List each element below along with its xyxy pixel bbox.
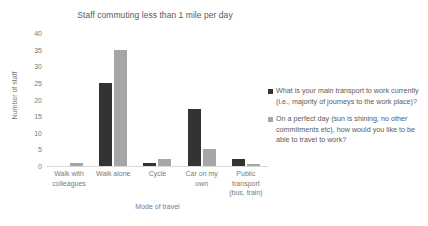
- bar-group: [135, 33, 179, 166]
- x-axis-title: Mode of travel: [47, 203, 268, 210]
- bar: [232, 159, 245, 166]
- y-axis-title: Number of staff: [11, 61, 18, 131]
- legend-swatch-icon: [268, 117, 273, 122]
- x-axis-label-line: (bus, train): [224, 188, 268, 198]
- x-axis-label: Cycle: [135, 169, 179, 179]
- x-axis-label-line: Public: [224, 169, 268, 179]
- x-axis-label-line: Car on my: [180, 169, 224, 179]
- legend-item[interactable]: On a perfect day (sun is shining, no oth…: [268, 114, 426, 146]
- bar-pair: [135, 33, 179, 166]
- y-tick-label: 35: [20, 46, 42, 53]
- x-axis-label-line: own: [180, 179, 224, 189]
- bar: [188, 109, 201, 166]
- y-tick-label: 5: [20, 146, 42, 153]
- y-tick-label: 40: [20, 30, 42, 37]
- bar-pair: [47, 33, 91, 166]
- bar: [158, 159, 171, 166]
- x-axis-label: Walk alone: [91, 169, 135, 179]
- x-axis-label-line: colleagues: [47, 179, 91, 189]
- x-axis-label-line: Walk alone: [91, 169, 135, 179]
- legend-swatch-icon: [268, 89, 273, 94]
- y-tick-label: 0: [20, 163, 42, 170]
- y-axis-tick-labels: 4035302520151050: [18, 33, 42, 166]
- bar-pair: [180, 33, 224, 166]
- bar-group: [91, 33, 135, 166]
- bar-pair: [91, 33, 135, 166]
- x-axis-category-labels: Walk withcolleaguesWalk aloneCycleCar on…: [47, 169, 268, 205]
- y-tick-label: 25: [20, 79, 42, 86]
- bar: [114, 50, 127, 166]
- x-axis-label-line: transport: [224, 179, 268, 189]
- x-axis-label: Walk withcolleagues: [47, 169, 91, 188]
- y-tick-label: 20: [20, 96, 42, 103]
- x-axis-label-line: Walk with: [47, 169, 91, 179]
- bar: [203, 149, 216, 166]
- y-tick-label: 10: [20, 129, 42, 136]
- chart-legend: What is your main transport to work curr…: [268, 86, 426, 153]
- y-tick-label: 15: [20, 113, 42, 120]
- bar-pair: [224, 33, 268, 166]
- x-axis-label: Car on myown: [180, 169, 224, 188]
- bar-group: [180, 33, 224, 166]
- bar-group: [47, 33, 91, 166]
- x-axis-label-line: Cycle: [135, 169, 179, 179]
- bar-chart: Staff commuting less than 1 mile per day…: [0, 0, 428, 226]
- legend-label: On a perfect day (sun is shining, no oth…: [276, 114, 426, 146]
- y-tick-label: 30: [20, 63, 42, 70]
- chart-title: Staff commuting less than 1 mile per day: [40, 10, 270, 20]
- x-axis-label: Publictransport(bus, train): [224, 169, 268, 198]
- legend-item[interactable]: What is your main transport to work curr…: [268, 86, 426, 107]
- legend-label: What is your main transport to work curr…: [276, 86, 426, 107]
- bar: [99, 83, 112, 166]
- x-axis-line: [47, 166, 268, 167]
- plot-area: [47, 33, 268, 166]
- bar-group: [224, 33, 268, 166]
